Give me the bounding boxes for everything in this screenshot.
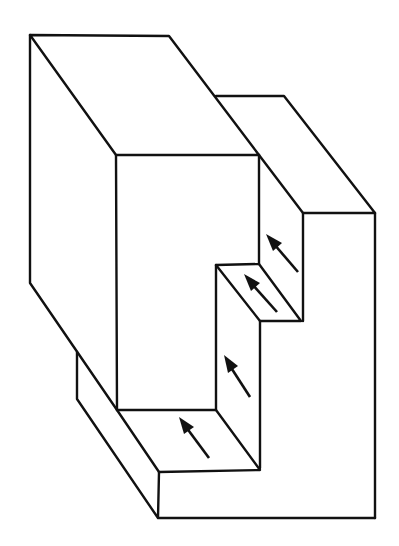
stepped-block-diagram — [0, 0, 399, 546]
bottom-step-front — [77, 352, 375, 518]
main-block-front-face — [116, 155, 259, 410]
main-block-left-edge — [30, 35, 117, 410]
arrow-icon — [224, 355, 250, 397]
right-block-front — [303, 213, 375, 518]
arrow-icon — [266, 234, 298, 272]
arrow-icon — [179, 417, 209, 458]
bottom-step-tread — [117, 410, 260, 472]
arrows — [179, 234, 298, 458]
